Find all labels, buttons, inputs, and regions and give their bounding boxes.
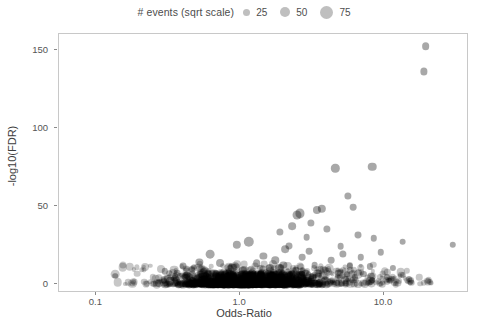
x-tick-mark [95,292,96,295]
legend-entry-75: 75 [320,6,350,19]
data-point [266,271,273,278]
data-point [206,250,215,259]
x-tick-mark [383,292,384,295]
y-tick-mark [54,127,57,128]
data-point [253,260,261,268]
data-point [358,254,364,260]
data-point [416,274,423,281]
data-point [424,279,431,286]
data-point [307,219,314,226]
data-point [189,267,195,273]
data-point [422,43,430,51]
data-point [302,269,309,276]
data-point [355,232,362,239]
data-point [179,263,186,270]
data-point [370,278,376,284]
legend-dot-large [320,6,333,19]
data-point [299,254,306,261]
data-point [293,211,302,220]
y-tick-label: 150 [22,43,48,54]
data-point [233,240,241,248]
data-point [342,280,349,287]
data-point [311,262,318,269]
data-point [211,281,217,287]
legend-label-75: 75 [339,7,350,18]
data-point [305,248,312,255]
data-point [250,272,259,281]
data-point [244,236,254,246]
data-point [420,68,427,75]
data-point [315,281,320,286]
data-point [288,222,296,230]
data-point [365,281,370,286]
legend-label-25: 25 [256,7,267,18]
data-point [313,206,321,214]
data-point [273,278,279,284]
legend-title: # events (sqrt scale) [137,6,234,18]
y-tick-mark [54,283,57,284]
data-point [350,204,357,211]
data-point [337,243,344,250]
size-legend: # events (sqrt scale) 25 50 75 [0,2,488,22]
plot-panel [58,33,468,292]
data-point [181,274,188,281]
x-tick-mark [239,292,240,295]
scatter-plot-figure: # events (sqrt scale) 25 50 75 0.11.010.… [0,0,488,333]
data-point [112,273,118,279]
data-point [384,274,390,280]
y-tick-label: 100 [22,121,48,132]
data-point [328,257,335,264]
legend-entry-50: 50 [280,7,307,18]
legend-dot-medium [280,7,290,17]
y-tick-mark [54,49,57,50]
data-point [449,241,455,247]
data-point [344,193,351,200]
data-point [399,238,406,245]
data-point [334,275,340,281]
data-point [378,249,384,255]
data-point [148,264,152,268]
data-point [239,267,248,276]
data-point [131,278,138,285]
data-point [118,263,127,272]
data-point [328,280,334,286]
data-point [368,162,377,171]
data-point [216,259,224,267]
x-tick-label: 10.0 [374,296,393,307]
data-point [322,266,329,273]
data-point [323,225,330,232]
data-point [281,245,289,253]
x-axis-label: Odds-Ratio [0,307,488,319]
data-point [346,275,350,279]
y-tick-label: 50 [22,199,48,210]
x-tick-label: 1.0 [233,296,246,307]
legend-entry-25: 25 [243,7,267,18]
data-point [139,267,145,273]
data-point [259,280,267,288]
data-point [303,233,310,240]
legend-dot-small [243,9,250,16]
data-point [209,264,214,269]
data-point [417,281,423,287]
data-point [340,250,347,257]
legend-label-50: 50 [296,7,307,18]
y-tick-mark [54,205,57,206]
data-point [371,235,377,241]
data-point [159,279,168,288]
data-point [260,252,267,259]
x-tick-label: 0.1 [89,296,102,307]
data-point [307,280,313,286]
data-point [143,280,150,287]
y-tick-label: 0 [22,277,48,288]
data-point [275,269,283,277]
data-point [331,164,339,172]
data-point [113,278,122,287]
data-point [406,276,412,282]
data-point [390,265,396,271]
data-point [277,229,284,236]
y-axis-label: -log10(FDR) [6,106,18,206]
